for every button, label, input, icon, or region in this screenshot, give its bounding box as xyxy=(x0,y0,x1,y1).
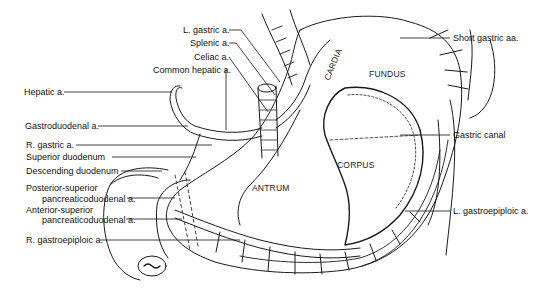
r-gastroepiploic-artery xyxy=(175,210,360,250)
aorta xyxy=(258,86,278,158)
label-r-gastroepiploic-artery: R. gastroepiploic a. xyxy=(26,235,103,245)
label-splenic-artery: Splenic a. xyxy=(190,38,230,48)
label-descending-duodenum: Descending duodenum xyxy=(26,166,119,176)
l-gastroepiploic-artery xyxy=(428,120,440,225)
label-l-gastric-artery: L. gastric a. xyxy=(183,25,230,35)
label-l-gastroepiploic-artery: L. gastroepiploic a. xyxy=(453,206,529,216)
label-posterior-superior-1: Posterior-superior xyxy=(26,183,98,193)
stomach-illustration xyxy=(0,0,544,294)
region-label-fundus: FUNDUS xyxy=(369,69,406,79)
label-r-gastric-artery: R. gastric a. xyxy=(26,140,74,150)
label-common-hepatic-artery: Common hepatic a. xyxy=(153,65,231,75)
region-label-antrum: ANTRUM xyxy=(252,183,290,193)
region-label-corpus: CORPUS xyxy=(337,160,375,170)
label-posterior-superior-2: pancreaticoduodenal a. xyxy=(42,194,136,204)
label-hepatic-artery: Hepatic a. xyxy=(24,87,65,97)
label-celiac-artery: Celiac a. xyxy=(194,52,229,62)
label-superior-duodenum: Superior duodenum xyxy=(26,152,105,162)
label-gastroduodenal-artery: Gastroduodenal a. xyxy=(25,121,99,131)
label-anterior-superior-1: Anterior-superior xyxy=(26,205,93,215)
common-hepatic-artery xyxy=(176,87,262,132)
label-anterior-superior-2: pancreaticoduodenal a. xyxy=(42,215,136,225)
label-short-gastric-arteries: Short gastric aa. xyxy=(453,33,519,43)
label-gastric-canal: Gastric canal xyxy=(453,130,506,140)
